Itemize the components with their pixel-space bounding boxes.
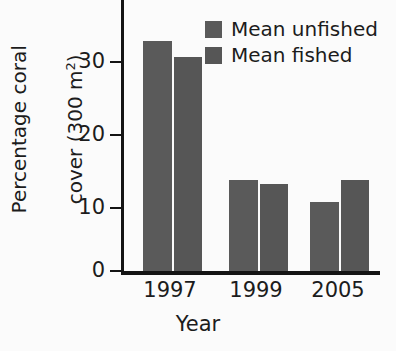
x-axis-title: Year bbox=[0, 312, 396, 336]
y-tick-label-30: 30 bbox=[45, 49, 105, 73]
chart-legend: Mean unfished Mean fished bbox=[205, 16, 378, 68]
y-tick-mark-20 bbox=[110, 134, 121, 136]
y-tick-mark-0 bbox=[110, 270, 121, 272]
legend-item-mean-fished: Mean fished bbox=[205, 42, 378, 68]
coral-cover-bar-chart: Percentage coral cover (300 m2) 0 10 20 … bbox=[0, 0, 396, 351]
bar-1999-mean-unfished bbox=[229, 180, 258, 271]
bar-1999-mean-fished bbox=[260, 184, 288, 271]
legend-label-mean-fished: Mean fished bbox=[231, 43, 353, 67]
legend-swatch-icon-mean-unfished bbox=[205, 21, 222, 38]
y-tick-mark-30 bbox=[110, 61, 121, 63]
y-tick-label-20: 20 bbox=[45, 122, 105, 146]
bar-1997-mean-unfished bbox=[143, 41, 172, 271]
bar-2005-mean-unfished bbox=[310, 202, 339, 271]
x-tick-label-1997: 1997 bbox=[130, 278, 210, 302]
x-tick-label-2005: 2005 bbox=[298, 278, 378, 302]
y-tick-mark-10 bbox=[110, 207, 121, 209]
y-axis-title-line1: Percentage coral bbox=[7, 45, 31, 213]
bar-2005-mean-fished bbox=[341, 180, 369, 271]
x-tick-label-1999: 1999 bbox=[216, 278, 296, 302]
legend-item-mean-unfished: Mean unfished bbox=[205, 16, 378, 42]
y-tick-label-0: 0 bbox=[45, 258, 105, 282]
legend-swatch-icon-mean-fished bbox=[205, 47, 222, 64]
legend-label-mean-unfished: Mean unfished bbox=[231, 17, 378, 41]
y-tick-label-10: 10 bbox=[45, 195, 105, 219]
x-axis-line bbox=[121, 271, 380, 275]
bar-1997-mean-fished bbox=[174, 57, 202, 271]
